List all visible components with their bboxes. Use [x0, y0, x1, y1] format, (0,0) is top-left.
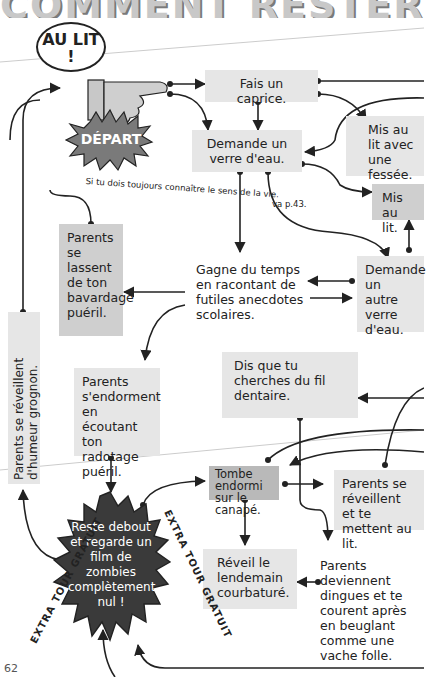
node-endorment: Parents s'endorment en écoutant ton rado…	[74, 368, 160, 456]
depart-label: DÉPART	[76, 131, 146, 147]
node-lassent: Parents se lassent de ton bavardage puér…	[59, 224, 123, 336]
node-verre: Demande un verre d'eau.	[192, 130, 302, 172]
node-fil: Dis que tu cherches du fil dentaire.	[222, 352, 358, 418]
node-fessee: Mis au lit avec une fessée.	[346, 116, 424, 176]
note-va-page[interactable]: va p.43.	[272, 199, 307, 209]
node-reveillent-lit: Parents se réveillent et te mettent au l…	[334, 470, 424, 530]
node-tombe: Tombe endormi sur le canapé.	[209, 466, 279, 500]
speech-bubble: AU LIT !	[36, 22, 106, 72]
node-autre-verre: Demande un autre verre d'eau.	[357, 256, 424, 332]
node-mis-au-lit: Mis au lit.	[372, 184, 424, 220]
node-gagne: Gagne du temps en racontant de futiles a…	[188, 256, 316, 324]
node-caprice: Fais un caprice.	[205, 70, 318, 102]
node-grognon: Parents se réveillent d'humeur grognon.	[12, 310, 40, 480]
node-dingues: Parents deviennent dingues et te courent…	[318, 552, 424, 644]
page-number: 62	[4, 662, 18, 675]
node-zombies: Reste debout et regarde un film de zombi…	[68, 520, 154, 610]
